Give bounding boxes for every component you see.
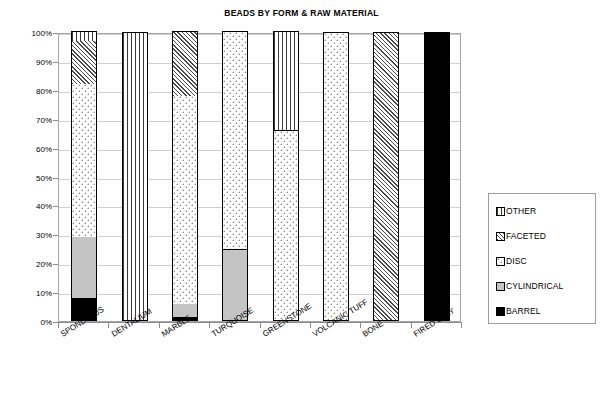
bar-segment-disc[interactable] <box>172 95 198 304</box>
gridline <box>59 92 460 93</box>
gridline <box>59 34 460 35</box>
chart-legend: OTHERFACETEDDISCCYLINDRICALBARREL <box>488 193 596 324</box>
plot-area <box>58 33 461 322</box>
y-tick-mark <box>53 293 58 294</box>
x-tick-mark <box>58 323 59 328</box>
bar-segment-faceted[interactable] <box>373 32 399 321</box>
bar-segment-other[interactable] <box>273 31 299 130</box>
bar-segment-disc[interactable] <box>273 130 299 321</box>
y-tick-label: 70% <box>4 115 52 124</box>
bar-marble[interactable] <box>172 32 198 321</box>
gridlines <box>59 34 460 321</box>
bar-spondylus[interactable] <box>71 32 97 321</box>
x-tick-mark <box>461 323 462 328</box>
y-tick-label: 100% <box>4 29 52 38</box>
bar-greenstone[interactable] <box>273 32 299 321</box>
y-tick-mark <box>53 120 58 121</box>
gridline <box>59 121 460 122</box>
y-tick-label: 80% <box>4 86 52 95</box>
bar-segment-faceted[interactable] <box>71 40 97 84</box>
legend-item-faceted[interactable]: FACETED <box>496 230 546 242</box>
bar-segment-faceted[interactable] <box>172 31 198 96</box>
y-tick-label: 20% <box>4 260 52 269</box>
chart-title: BEADS BY FORM & RAW MATERIAL <box>0 8 603 18</box>
y-tick-label: 0% <box>4 318 52 327</box>
y-tick-mark <box>53 33 58 34</box>
y-tick-mark <box>53 322 58 323</box>
bar-segment-barrel[interactable] <box>424 32 450 321</box>
gridline <box>59 265 460 266</box>
legend-item-label: FACETED <box>506 231 546 241</box>
x-tick-mark <box>360 323 361 328</box>
legend-item-cylindrical[interactable]: CYLINDRICAL <box>496 280 563 292</box>
y-tick-label: 60% <box>4 144 52 153</box>
legend-item-label: OTHER <box>506 206 536 216</box>
chart-root: BEADS BY FORM & RAW MATERIAL 100%90%80%7… <box>0 0 603 394</box>
bar-volcanic-tuff[interactable] <box>323 32 349 321</box>
bar-dentalium[interactable] <box>122 32 148 321</box>
y-tick-mark <box>53 62 58 63</box>
x-tick-mark <box>260 323 261 328</box>
bar-segment-disc[interactable] <box>71 83 97 237</box>
y-tick-mark <box>53 91 58 92</box>
y-tick-label: 30% <box>4 231 52 240</box>
legend-item-disc[interactable]: DISC <box>496 255 527 267</box>
x-tick-mark <box>209 323 210 328</box>
legend-item-other[interactable]: OTHER <box>496 205 536 217</box>
gridline <box>59 207 460 208</box>
diagonal-hatch-swatch <box>496 232 505 241</box>
y-tick-mark <box>53 264 58 265</box>
y-tick-mark <box>53 178 58 179</box>
y-tick-label: 90% <box>4 57 52 66</box>
gridline <box>59 236 460 237</box>
y-tick-label: 50% <box>4 173 52 182</box>
solid-gray-swatch <box>496 282 505 291</box>
y-tick-label: 10% <box>4 289 52 298</box>
legend-item-label: CYLINDRICAL <box>506 281 563 291</box>
x-tick-mark <box>159 323 160 328</box>
gridline <box>59 63 460 64</box>
bar-segment-disc[interactable] <box>323 32 349 321</box>
legend-item-barrel[interactable]: BARREL <box>496 305 541 317</box>
bar-turquoise[interactable] <box>222 32 248 321</box>
solid-black-swatch <box>496 307 505 316</box>
y-tick-mark <box>53 235 58 236</box>
x-tick-mark <box>108 323 109 328</box>
x-tick-mark <box>411 323 412 328</box>
legend-item-label: BARREL <box>506 306 541 316</box>
bar-segment-cylindrical[interactable] <box>71 236 97 298</box>
bar-segment-other[interactable] <box>122 32 148 321</box>
fine-dots-swatch <box>496 257 505 266</box>
gridline <box>59 150 460 151</box>
vertical-lines-swatch <box>496 207 505 216</box>
bar-fired-clay[interactable] <box>424 32 450 321</box>
gridline <box>59 179 460 180</box>
y-axis-labels: 100%90%80%70%60%50%40%30%20%10%0% <box>0 33 52 322</box>
y-tick-mark <box>53 149 58 150</box>
gridline <box>59 294 460 295</box>
bar-bone[interactable] <box>373 32 399 321</box>
y-tick-mark <box>53 206 58 207</box>
bar-segment-disc[interactable] <box>222 31 248 249</box>
legend-item-label: DISC <box>506 256 527 266</box>
y-tick-label: 40% <box>4 202 52 211</box>
x-tick-mark <box>310 323 311 328</box>
bar-segment-other[interactable] <box>71 31 97 41</box>
